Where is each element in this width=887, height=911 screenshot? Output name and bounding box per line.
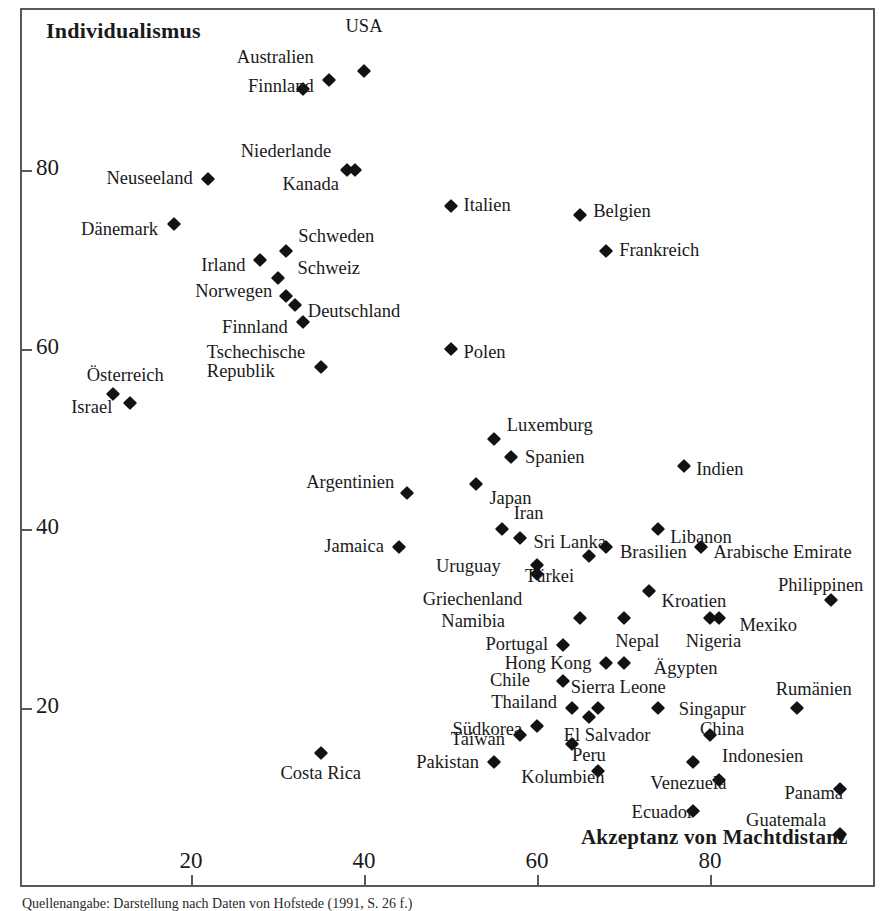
data-point-label: Österreich xyxy=(87,367,164,386)
data-point-label: Schweden xyxy=(298,228,374,247)
data-point-label: Pakistan xyxy=(416,753,479,772)
y-tick-40 xyxy=(20,529,32,531)
data-point-label: Guatemala xyxy=(746,811,826,830)
data-point-label: Peru xyxy=(572,746,606,765)
data-point-label: Iran xyxy=(514,505,544,524)
x-tick-label-80: 80 xyxy=(699,848,722,874)
x-tick-label-20: 20 xyxy=(180,848,203,874)
y-tick-60 xyxy=(20,349,32,351)
data-point-label: Kroatien xyxy=(662,593,727,612)
data-point-label: Sri Lanka xyxy=(534,533,606,552)
data-point-label: Arabische Emirate xyxy=(713,543,851,562)
data-point-label: Spanien xyxy=(525,448,585,467)
data-point-label: Luxemburg xyxy=(507,416,593,435)
data-point-label: Costa Rica xyxy=(280,765,361,784)
data-point-label: Israel xyxy=(71,398,112,417)
data-point-label: Ecuador xyxy=(632,803,694,822)
data-point-label: Chile xyxy=(490,671,530,690)
x-tick-label-40: 40 xyxy=(353,848,376,874)
data-point-label: Belgien xyxy=(593,203,651,222)
data-point-label: Frankreich xyxy=(619,241,699,260)
y-tick-label-40: 40 xyxy=(36,514,59,540)
y-tick-80 xyxy=(20,170,32,172)
data-point-label: Nigeria xyxy=(686,632,741,651)
y-tick-label-20: 20 xyxy=(36,693,59,719)
y-axis-title: Individualismus xyxy=(46,18,201,44)
data-point-label: Brasilien xyxy=(620,543,687,562)
data-point-label: Namibia xyxy=(441,612,505,631)
data-point-label: Ägypten xyxy=(654,659,718,678)
data-point-label: Deutschland xyxy=(308,302,400,321)
data-point-label: Uruguay xyxy=(436,558,501,577)
data-point-label: Norwegen xyxy=(195,282,272,301)
data-point-label: Finnland xyxy=(248,77,314,96)
data-point-label: Kanada xyxy=(282,176,339,195)
data-point-label: Finnland xyxy=(222,318,288,337)
data-point-label: Kolumbien xyxy=(521,768,604,787)
data-point-label: Panama xyxy=(785,784,844,803)
data-point-label: Mexiko xyxy=(739,616,797,635)
data-point-label: Jamaica xyxy=(324,537,384,556)
y-tick-label-80: 80 xyxy=(36,155,59,181)
data-point-label: Indonesien xyxy=(722,748,803,767)
figure-caption: Quellenangabe: Darstellung nach Daten vo… xyxy=(22,896,412,911)
data-point-label: China xyxy=(700,720,744,739)
y-tick-label-60: 60 xyxy=(36,334,59,360)
data-point-label: Thailand xyxy=(491,693,557,712)
x-tick-label-60: 60 xyxy=(526,848,549,874)
data-point-label: Argentinien xyxy=(306,473,394,492)
data-point-label: Singapur xyxy=(679,700,746,719)
data-point-label: Niederlande xyxy=(241,142,331,161)
data-point-label: Dänemark xyxy=(81,220,158,239)
data-point-label: Australien xyxy=(237,48,314,67)
data-point-label: USA xyxy=(345,17,382,36)
data-point-label: Indien xyxy=(696,461,743,480)
data-point-label: Philippinen xyxy=(778,576,863,595)
data-point-label: Taiwan xyxy=(451,731,505,750)
chart-page: Individualismus Akzeptanz von Machtdista… xyxy=(0,0,887,911)
x-tick-40 xyxy=(364,875,366,887)
x-tick-80 xyxy=(710,875,712,887)
y-tick-20 xyxy=(20,708,32,710)
data-point-label: Portugal xyxy=(486,636,549,655)
data-point-label: Rumänien xyxy=(776,680,852,699)
data-point-label: Schweiz xyxy=(297,259,360,278)
x-tick-20 xyxy=(191,875,193,887)
data-point-label: Polen xyxy=(463,343,505,362)
data-point-label: Griechenland xyxy=(423,591,523,610)
data-point-label: Venezuela xyxy=(650,775,726,794)
data-point-label: Neuseeland xyxy=(106,169,192,188)
data-point-label: Italien xyxy=(463,196,510,215)
data-point-label: Nepal xyxy=(615,632,659,651)
data-point-label: Irland xyxy=(201,256,245,275)
data-point-label: Tschechische Republik xyxy=(207,343,305,381)
data-point-label: Sierra Leone xyxy=(571,679,666,698)
x-tick-60 xyxy=(537,875,539,887)
